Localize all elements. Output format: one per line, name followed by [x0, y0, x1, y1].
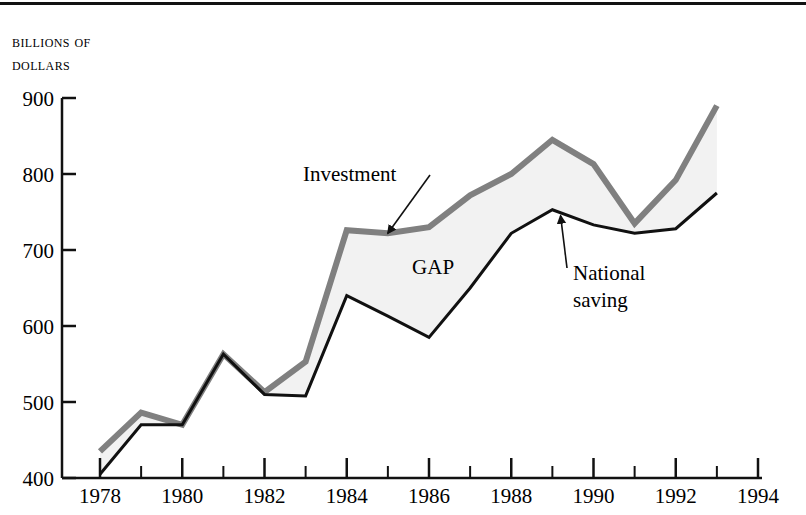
x-axis-ticks	[100, 458, 758, 478]
annotation-investment-label: Investment	[303, 162, 396, 186]
y-tick-label-700: 700	[23, 239, 55, 263]
x-tick-label-1986: 1986	[408, 484, 450, 508]
x-tick-label-1994: 1994	[737, 484, 780, 508]
plot-area: 400500600700800900 197819801982198419861…	[0, 0, 806, 515]
y-tick-label-600: 600	[23, 315, 55, 339]
x-tick-label-1992: 1992	[655, 484, 697, 508]
x-tick-label-1990: 1990	[573, 484, 615, 508]
chart-figure: Billions of dollars 400500600700800900 1…	[0, 0, 806, 515]
y-tick-label-900: 900	[23, 87, 55, 111]
y-axis-ticks	[62, 98, 76, 478]
x-axis-tick-labels: 197819801982198419861988199019921994	[79, 484, 780, 508]
x-tick-label-1978: 1978	[79, 484, 121, 508]
y-axis-tick-labels: 400500600700800900	[23, 87, 55, 491]
x-tick-label-1984: 1984	[326, 484, 369, 508]
annotation-national-saving-label-line2: saving	[573, 288, 628, 312]
y-tick-label-400: 400	[23, 467, 55, 491]
x-tick-label-1988: 1988	[490, 484, 532, 508]
x-tick-label-1982: 1982	[244, 484, 286, 508]
x-tick-label-1980: 1980	[161, 484, 203, 508]
y-tick-label-500: 500	[23, 391, 55, 415]
annotation-gap-label: GAP	[412, 255, 454, 279]
y-tick-label-800: 800	[23, 163, 55, 187]
leader-line-national-saving	[561, 216, 567, 268]
annotation-national-saving-label-line1: National	[573, 261, 645, 285]
